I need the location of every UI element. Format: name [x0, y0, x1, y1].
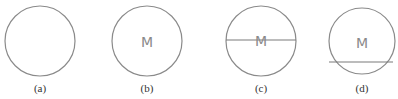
circle-a: [5, 6, 75, 76]
caption-c: (c): [255, 82, 268, 95]
caption-b: (b): [141, 82, 154, 95]
figure-c: M (c): [226, 6, 296, 95]
circle-diagram: (a) M (b) M (c) M (d): [0, 0, 398, 99]
caption-d: (d): [356, 82, 369, 95]
figure-d: M (d): [329, 8, 395, 95]
caption-a: (a): [34, 82, 47, 95]
letter-m-b: M: [141, 34, 153, 50]
letter-m-c: M: [255, 33, 267, 49]
figure-b: M (b): [112, 6, 182, 95]
figure-a: (a): [5, 6, 75, 95]
letter-m-d: M: [356, 35, 368, 51]
